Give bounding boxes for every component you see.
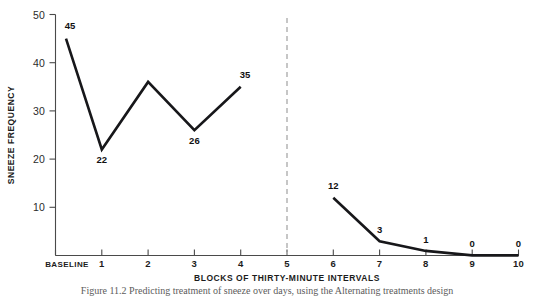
x-tick-label-2: 2 — [145, 258, 151, 269]
y-tick-label-40: 40 — [33, 57, 45, 69]
point-label-block4-35: 35 — [240, 69, 251, 80]
sneeze-frequency-line-chart: 50 40 30 20 10 SNEEZE FREQUENCY BASELINE — [0, 0, 534, 297]
point-label-block1-22: 22 — [97, 154, 108, 165]
x-tick-label-8: 8 — [423, 258, 429, 269]
y-tick-label-50: 50 — [33, 9, 45, 21]
y-tick-label-20: 20 — [33, 153, 45, 165]
point-label-baseline-45: 45 — [65, 20, 76, 31]
x-tick-label-baseline: BASELINE — [45, 260, 89, 269]
point-label-block6-12: 12 — [328, 180, 339, 191]
point-label-block7-3: 3 — [377, 224, 382, 235]
x-tick-label-7: 7 — [377, 258, 383, 269]
figure-caption: Figure 11.2 Predicting treatment of snee… — [0, 285, 534, 297]
x-tick-label-3: 3 — [192, 258, 198, 269]
x-tick-label-5: 5 — [284, 258, 290, 269]
x-axis-title: BLOCKS OF THIRTY-MINUTE INTERVALS — [194, 273, 380, 283]
point-label-block8-1: 1 — [423, 234, 429, 245]
point-label-block9-0: 0 — [470, 238, 475, 249]
point-label-block10-0: 0 — [516, 238, 521, 249]
y-axis-title-group: SNEEZE FREQUENCY — [6, 86, 16, 185]
y-tick-label-10: 10 — [33, 201, 45, 213]
figure-container: 50 40 30 20 10 SNEEZE FREQUENCY BASELINE — [0, 0, 534, 297]
y-axis-title: SNEEZE FREQUENCY — [6, 86, 16, 185]
x-tick-label-10: 10 — [513, 258, 524, 269]
x-axis-title-group: BLOCKS OF THIRTY-MINUTE INTERVALS — [194, 273, 380, 283]
x-tick-label-1: 1 — [99, 258, 105, 269]
y-tick-label-30: 30 — [33, 105, 45, 117]
x-tick-label-9: 9 — [469, 258, 475, 269]
point-label-block3-26: 26 — [189, 135, 200, 146]
x-tick-label-4: 4 — [238, 258, 244, 269]
x-tick-label-6: 6 — [331, 258, 337, 269]
